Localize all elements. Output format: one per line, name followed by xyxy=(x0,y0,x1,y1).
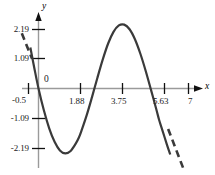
y-axis-arrowhead xyxy=(35,12,41,21)
x-axis-arrowhead xyxy=(194,85,203,91)
dashed-right-segment xyxy=(168,129,183,168)
origin-label: 0 xyxy=(44,75,49,85)
plot-canvas xyxy=(0,0,215,175)
x-tick-label-neg05: -0.5 xyxy=(12,96,26,105)
y-tick-label-219: 2.19 xyxy=(0,25,29,34)
x-tick-label-375: 3.75 xyxy=(111,97,126,106)
function-graph-figure: y x 0 2.19 1.09 -1.09 -2.19 -0.5 1.88 3.… xyxy=(0,0,215,175)
y-tick-label-109: 1.09 xyxy=(0,54,29,63)
x-tick-label-563: 5.63 xyxy=(153,97,168,106)
y-axis-label: y xyxy=(42,2,46,12)
x-axis-label: x xyxy=(205,82,209,92)
x-tick-label-188: 1.88 xyxy=(69,97,84,106)
x-tick-label-7: 7 xyxy=(188,97,192,106)
y-tick-label-neg219: -2.19 xyxy=(0,144,29,153)
y-tick-label-neg109: -1.09 xyxy=(0,114,29,123)
solid-curve xyxy=(30,24,170,154)
